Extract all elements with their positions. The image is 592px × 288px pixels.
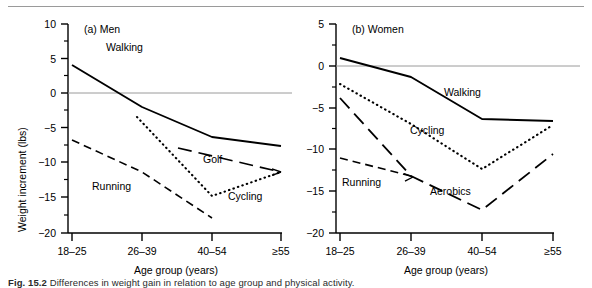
y-tick-label: −5 <box>44 122 56 134</box>
series-label-aerobics: Aerobics <box>430 185 471 197</box>
series-line-running <box>340 158 411 176</box>
y-tick-label: −5 <box>312 102 324 114</box>
panel-title-women: (b) Women <box>352 23 404 35</box>
y-tick-label: 0 <box>318 60 324 72</box>
x-tick-label: ≥55 <box>272 245 290 257</box>
figure-caption-text: Differences in weight gain in relation t… <box>50 277 355 288</box>
x-tick-label: 40–54 <box>467 245 496 257</box>
x-ticks <box>340 233 553 241</box>
x-axis-label: Age group (years) <box>404 264 488 276</box>
y-major-ticks <box>61 24 68 233</box>
x-ticks <box>72 233 281 241</box>
y-tick-label: 0 <box>50 87 56 99</box>
series-line-walking <box>72 65 281 146</box>
figure-root: Weight increment (lbs) <box>0 0 592 288</box>
x-tick-label: ≥55 <box>544 245 562 257</box>
chart-svg-women: 5 0 −5 −10 −15 −20 18–25 26–39 40–54 ≥55… <box>296 0 592 288</box>
y-tick-label: −20 <box>38 227 56 239</box>
x-tick-label: 18–25 <box>325 245 354 257</box>
x-axis-label: Age group (years) <box>134 264 218 276</box>
golf-arrowhead-icon <box>272 169 281 176</box>
x-tick-label: 40–54 <box>197 245 226 257</box>
series-label-running: Running <box>342 176 381 188</box>
y-tick-label: 10 <box>44 18 56 30</box>
y-tick-label: −15 <box>38 191 56 203</box>
series-label-cycling: Cycling <box>228 190 263 202</box>
series-label-running: Running <box>92 180 131 192</box>
series-label-cycling: Cycling <box>410 124 445 136</box>
y-tick-label: −20 <box>306 227 324 239</box>
figure-caption: Fig. 15.2 Differences in weight gain in … <box>8 277 584 288</box>
running-arrowhead-icon <box>404 174 413 182</box>
panel-title-men: (a) Men <box>84 23 120 35</box>
chart-svg-men: 10 5 0 −5 −10 −15 −20 18–25 26–39 40–54 … <box>0 0 296 288</box>
y-axis-label: Weight increment (lbs) <box>16 127 28 232</box>
x-tick-label: 18–25 <box>57 245 86 257</box>
series-label-golf: Golf <box>203 153 222 165</box>
x-tick-label: 26–39 <box>396 245 425 257</box>
y-tick-label: 5 <box>318 18 324 30</box>
y-tick-label: −10 <box>306 143 324 155</box>
y-tick-label: −10 <box>38 156 56 168</box>
series-label-walking: Walking <box>106 41 143 53</box>
y-tick-label: 5 <box>50 53 56 65</box>
chart-panel-women: 5 0 −5 −10 −15 −20 18–25 26–39 40–54 ≥55… <box>296 0 592 288</box>
x-tick-label: 26–39 <box>127 245 156 257</box>
y-tick-label: −15 <box>306 185 324 197</box>
chart-panel-men: Weight increment (lbs) <box>0 0 296 288</box>
series-label-walking: Walking <box>444 86 481 98</box>
series-line-golf <box>178 148 281 172</box>
figure-caption-number: Fig. 15.2 <box>8 277 47 288</box>
